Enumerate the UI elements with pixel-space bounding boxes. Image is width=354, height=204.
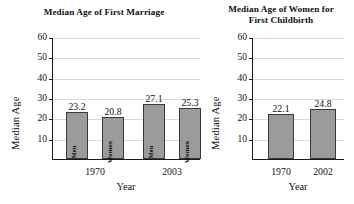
chart-median-age-women-first-childbirth: Median Age of Women for First Childbirth… [208, 0, 354, 204]
y-axis-tick [49, 119, 53, 120]
chart-title: Median Age of First Marriage [0, 7, 208, 18]
y-axis-tick-label: 40 [38, 74, 48, 84]
x-axis-group-label: 2002 [313, 167, 333, 177]
y-axis-tick [249, 119, 253, 120]
bar-series-label: Men [70, 145, 77, 158]
bar-value-label: 23.2 [68, 102, 85, 112]
bar: 20.8Women [102, 117, 124, 159]
bar-series-label: Women [183, 141, 190, 163]
bar: 27.1Men [143, 104, 165, 159]
bar-value-label: 25.3 [181, 98, 198, 108]
y-axis-tick-label: 10 [38, 135, 48, 145]
y-axis-tick-label: 40 [238, 74, 248, 84]
y-axis-tick-label: 50 [38, 54, 48, 64]
y-axis-tick [249, 140, 253, 141]
bar-series-label: Men [147, 145, 154, 158]
gridline [253, 79, 344, 80]
plot-area: 10203040506022.124.819702002 [252, 38, 344, 160]
chart-title-line: Median Age of Women for [208, 4, 354, 15]
y-axis-tick-label: 30 [38, 94, 48, 104]
y-axis-tick-label: 50 [238, 54, 248, 64]
bar-value-label: 22.1 [272, 104, 289, 114]
y-axis-tick-label: 20 [238, 115, 248, 125]
bar: 23.2Men [66, 112, 88, 159]
y-axis-tick [249, 79, 253, 80]
y-axis-tick [249, 58, 253, 59]
bar-value-label: 20.8 [104, 107, 121, 117]
bar: 24.8 [310, 109, 336, 159]
y-axis-title: Median Age [210, 96, 221, 150]
bar-series-label: Women [106, 141, 113, 163]
y-axis-tick-label: 60 [238, 33, 248, 43]
chart-title: Median Age of Women for First Childbirth [208, 4, 354, 25]
x-axis-group-label: 2003 [162, 167, 182, 177]
y-axis-tick [49, 38, 53, 39]
gridline [53, 38, 200, 39]
y-axis-title: Median Age [10, 96, 21, 150]
y-axis-tick [49, 99, 53, 100]
chart-title-line: First Childbirth [208, 15, 354, 26]
x-axis-title: Year [289, 181, 308, 192]
y-axis-tick [49, 79, 53, 80]
bar-value-label: 24.8 [314, 99, 331, 109]
gridline [53, 58, 200, 59]
y-axis-tick [249, 99, 253, 100]
gridline [53, 79, 200, 80]
gridline [253, 58, 344, 59]
bar: 22.1 [268, 114, 294, 159]
y-axis-tick-label: 60 [38, 33, 48, 43]
figure-root: Median Age of First Marriage Median Age … [0, 0, 354, 204]
x-axis-title: Year [117, 181, 136, 192]
chart-title-line: Median Age of First Marriage [0, 7, 208, 18]
y-axis-tick [249, 38, 253, 39]
y-axis-tick-label: 20 [38, 115, 48, 125]
chart-median-age-first-marriage: Median Age of First Marriage Median Age … [0, 0, 208, 204]
y-axis-tick-label: 10 [238, 135, 248, 145]
y-axis-tick-label: 30 [238, 94, 248, 104]
x-axis-group-label: 1970 [271, 167, 291, 177]
y-axis-tick [49, 58, 53, 59]
bar: 25.3Women [179, 108, 201, 159]
plot-area: 10203040506023.2Men20.8Women27.1Men25.3W… [52, 38, 200, 160]
gridline [253, 38, 344, 39]
y-axis-tick [49, 140, 53, 141]
bar-value-label: 27.1 [145, 94, 162, 104]
x-axis-group-label: 1970 [85, 167, 105, 177]
